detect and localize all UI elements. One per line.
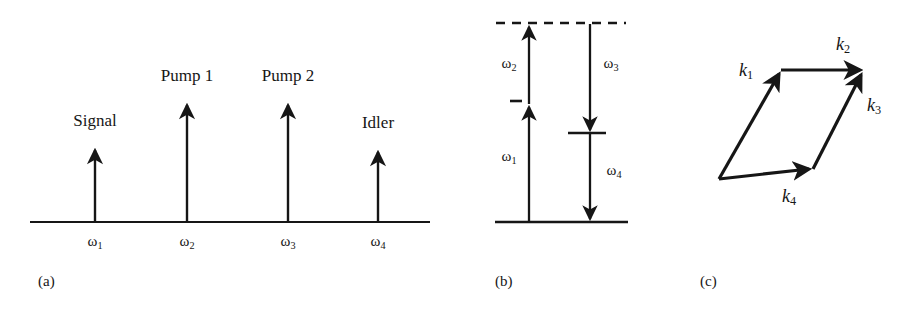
omega-subscript: 4 — [380, 240, 385, 251]
axis-label-omega-1: ω1 — [88, 234, 103, 251]
wavevector-k1-arrow — [719, 74, 779, 179]
omega-subscript: 2 — [189, 240, 194, 251]
axis-label-omega-4: ω4 — [371, 234, 386, 251]
omega-subscript: 1 — [97, 240, 102, 251]
transition-label-omega-4: ω4 — [607, 163, 622, 180]
omega-subscript: 3 — [290, 240, 295, 251]
four-wave-mixing-figure: Signal Pump 1 Pump 2 Idler ω1 ω2 ω3 ω4 ω… — [0, 0, 911, 317]
figure-vector-canvas — [0, 0, 911, 317]
spectrum-label-pump-1: Pump 1 — [161, 67, 213, 84]
wavevector-k4-arrow — [719, 169, 809, 179]
panel-c-wavevectors — [719, 70, 861, 179]
transition-label-omega-1: ω1 — [502, 149, 517, 166]
spectrum-label-pump-2: Pump 2 — [262, 67, 314, 84]
omega-subscript: 3 — [613, 62, 618, 73]
transition-label-omega-2: ω2 — [502, 56, 517, 73]
omega-glyph: ω — [281, 233, 291, 249]
omega-glyph: ω — [371, 233, 381, 249]
wavevector-label-k4: k4 — [782, 187, 796, 208]
axis-label-omega-3: ω3 — [281, 234, 296, 251]
panel-caption-c: (c) — [700, 274, 717, 289]
wavevector-label-k1: k1 — [739, 61, 753, 82]
k-glyph: k — [867, 95, 875, 115]
omega-subscript: 2 — [511, 62, 516, 73]
panel-caption-b: (b) — [495, 274, 513, 289]
omega-subscript: 1 — [511, 155, 516, 166]
wavevector-label-k3: k3 — [867, 96, 881, 117]
omega-glyph: ω — [180, 233, 190, 249]
transition-label-omega-3: ω3 — [604, 56, 619, 73]
omega-glyph: ω — [607, 162, 617, 178]
k-subscript: 3 — [875, 103, 881, 117]
omega-glyph: ω — [604, 55, 614, 71]
omega-glyph: ω — [502, 55, 512, 71]
omega-subscript: 4 — [616, 169, 621, 180]
k-glyph: k — [836, 34, 844, 54]
omega-glyph: ω — [88, 233, 98, 249]
omega-glyph: ω — [502, 148, 512, 164]
k-subscript: 1 — [747, 68, 753, 82]
k-glyph: k — [739, 60, 747, 80]
k-glyph: k — [782, 186, 790, 206]
spectrum-label-signal: Signal — [73, 112, 116, 129]
wavevector-k3-arrow — [813, 75, 861, 169]
k-subscript: 4 — [790, 194, 796, 208]
spectrum-label-idler: Idler — [362, 114, 394, 131]
wavevector-label-k2: k2 — [836, 35, 850, 56]
axis-label-omega-2: ω2 — [180, 234, 195, 251]
panel-b-energy-levels — [495, 23, 628, 222]
k-subscript: 2 — [844, 42, 850, 56]
panel-caption-a: (a) — [38, 274, 55, 289]
